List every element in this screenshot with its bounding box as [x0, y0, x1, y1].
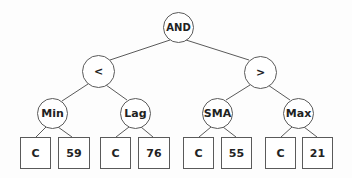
leaf-max-value-label: 21	[310, 147, 325, 160]
node-sma: SMA	[202, 98, 233, 129]
edge-min-c	[36, 127, 46, 137]
leaf-min-value: 59	[58, 137, 90, 169]
edge-and-lt	[110, 40, 170, 60]
expression-tree-diagram: AND < > Min Lag SMA Max C 59 C 76 C 55 C…	[0, 0, 352, 178]
edge-gt-max	[268, 85, 290, 100]
leaf-max-value: 21	[302, 137, 333, 169]
edge-gt-sma	[226, 85, 250, 100]
node-less-than: <	[82, 55, 115, 88]
node-and-label: AND	[166, 22, 190, 33]
edge-lt-lag	[106, 85, 127, 100]
node-less-than-label: <	[94, 65, 103, 78]
node-min: Min	[37, 98, 68, 129]
leaf-min-value-label: 59	[66, 147, 81, 160]
edge-min-v	[58, 127, 72, 137]
node-sma-label: SMA	[204, 107, 231, 120]
edge-max-v	[304, 127, 317, 137]
leaf-lag-value-label: 76	[146, 147, 161, 160]
leaf-lag-value: 76	[138, 137, 170, 169]
edge-max-c	[281, 127, 292, 137]
leaf-lag-c: C	[100, 137, 131, 169]
edge-lt-min	[62, 84, 88, 101]
leaf-sma-c-label: C	[194, 147, 202, 160]
edge-sma-v	[223, 127, 236, 137]
edge-sma-c	[199, 127, 211, 137]
edge-lag-c	[116, 127, 129, 137]
node-min-label: Min	[41, 107, 64, 120]
edge-lag-v	[141, 127, 153, 137]
node-greater-than-label: >	[256, 66, 265, 79]
leaf-sma-value: 55	[221, 137, 252, 169]
node-lag: Lag	[120, 98, 151, 129]
leaf-max-c: C	[265, 137, 296, 169]
edge-and-gt	[186, 40, 249, 60]
leaf-sma-c: C	[183, 137, 214, 169]
node-greater-than: >	[244, 56, 277, 89]
leaf-max-c-label: C	[276, 147, 284, 160]
leaf-sma-value-label: 55	[229, 147, 244, 160]
leaf-lag-c-label: C	[111, 147, 119, 160]
node-and: AND	[163, 12, 194, 43]
node-lag-label: Lag	[124, 107, 146, 120]
node-max: Max	[283, 98, 314, 129]
leaf-min-c-label: C	[31, 147, 39, 160]
node-max-label: Max	[286, 107, 311, 120]
leaf-min-c: C	[20, 137, 51, 169]
